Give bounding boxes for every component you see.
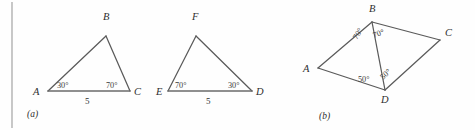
- side-label-ac: 5: [85, 96, 90, 106]
- segment-cd2: [385, 40, 440, 90]
- vertex-label-b1: B: [103, 11, 110, 22]
- vertex-label-d2: D: [380, 94, 389, 105]
- vertex-label-f: F: [191, 11, 199, 22]
- segment-ab2: [318, 22, 372, 68]
- caption-b: (b): [319, 111, 330, 122]
- vertex-label-e: E: [155, 86, 163, 97]
- vertex-label-a2: A: [302, 63, 310, 74]
- figure-canvas: A B C 30° 70° 5 E F D 70° 30° 5 (a) B A …: [0, 0, 475, 130]
- vertex-label-d1: D: [255, 86, 264, 97]
- segment-fd: [196, 36, 252, 91]
- vertex-label-a1: A: [32, 86, 40, 97]
- angle-label-d1: 30°: [228, 81, 239, 90]
- angle-label-e: 70°: [175, 81, 186, 90]
- vertex-label-b2: B: [369, 3, 376, 14]
- side-label-ed: 5: [206, 96, 211, 106]
- vertex-label-c2: C: [445, 27, 453, 38]
- angle-label-c1: 70°: [106, 81, 117, 90]
- geometry-figure: A B C 30° 70° 5 E F D 70° 30° 5 (a) B A …: [0, 0, 475, 130]
- angle-label-adb: 50°: [358, 75, 369, 84]
- vertex-label-c1: C: [134, 86, 142, 97]
- caption-a: (a): [27, 109, 38, 120]
- segment-da2: [318, 68, 385, 90]
- angle-label-a1: 30°: [57, 81, 68, 90]
